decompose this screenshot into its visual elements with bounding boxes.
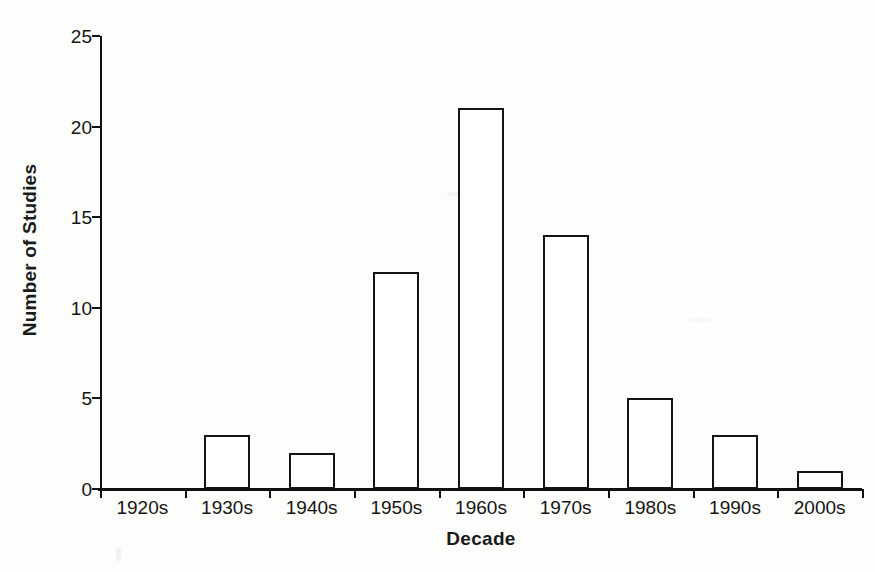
y-tick-mark: [92, 307, 100, 309]
y-tick-label: 0: [48, 480, 92, 499]
bar: [797, 471, 843, 489]
bars-layer: [100, 36, 862, 489]
bar-slot: [693, 36, 778, 489]
bar: [543, 235, 589, 489]
bar-chart: Number of Studies 0510152025 1920s1930s1…: [0, 0, 875, 572]
y-tick-mark: [92, 397, 100, 399]
y-tick-label: 15: [48, 208, 92, 227]
x-axis-title: Decade: [100, 528, 862, 550]
plot-area: [100, 36, 862, 489]
bar-slot: [777, 36, 862, 489]
x-tick-label: 1970s: [540, 497, 592, 519]
y-tick-label: 20: [48, 117, 92, 136]
y-tick-label: 5: [48, 389, 92, 408]
bar-slot: [185, 36, 270, 489]
x-tick-mark: [862, 489, 864, 498]
x-tick-label: 1980s: [624, 497, 676, 519]
bar: [289, 453, 335, 489]
x-tick-label: 1990s: [709, 497, 761, 519]
y-tick-label: 25: [48, 27, 92, 46]
y-tick-label: 10: [48, 298, 92, 317]
y-axis-title-label: Number of Studies: [19, 164, 41, 336]
bar: [204, 435, 250, 489]
bar: [712, 435, 758, 489]
bar-slot: [523, 36, 608, 489]
bar: [458, 108, 504, 489]
bar: [627, 398, 673, 489]
y-axis-tick-labels: 0510152025: [48, 0, 92, 572]
y-tick-mark: [92, 216, 100, 218]
bar-slot: [269, 36, 354, 489]
x-tick-label: 1950s: [370, 497, 422, 519]
bar-slot: [608, 36, 693, 489]
x-tick-label: 1940s: [286, 497, 338, 519]
y-axis-title: Number of Studies: [10, 0, 50, 500]
x-tick-label: 1930s: [201, 497, 253, 519]
bar: [373, 272, 419, 489]
bar-slot: [100, 36, 185, 489]
bar-slot: [354, 36, 439, 489]
y-tick-mark: [92, 35, 100, 37]
x-tick-label: 1960s: [455, 497, 507, 519]
bar-slot: [439, 36, 524, 489]
y-tick-mark: [92, 488, 100, 490]
x-tick-label: 1920s: [116, 497, 168, 519]
y-tick-mark: [92, 126, 100, 128]
x-axis-tick-labels: 1920s1930s1940s1950s1960s1970s1980s1990s…: [100, 497, 862, 527]
x-tick-label: 2000s: [794, 497, 846, 519]
